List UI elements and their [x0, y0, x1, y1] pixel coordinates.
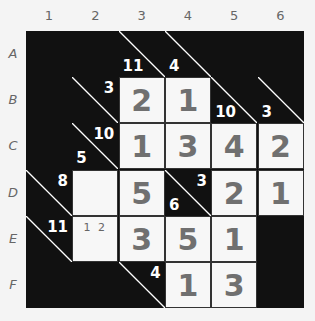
cell-value: 1: [166, 263, 210, 307]
cell-value: 3: [120, 217, 164, 261]
entry-cell-C4[interactable]: 3: [165, 123, 211, 169]
clue-cell-C2: 105: [72, 123, 118, 169]
cell-value: 3: [166, 124, 210, 168]
cell-value: 5: [120, 171, 164, 215]
kakuro-grid: 1143211031051342853621111 2351413: [26, 31, 304, 308]
cell-value: 1: [120, 124, 164, 168]
entry-cell-C5[interactable]: 4: [211, 123, 257, 169]
block-cell-A6: [258, 31, 304, 77]
cell-value: [73, 171, 117, 215]
clue-cell-E1: 11: [26, 216, 72, 262]
entry-cell-D5[interactable]: 2: [211, 170, 257, 216]
block-cell-F1: [26, 262, 72, 308]
down-clue: 6: [169, 196, 179, 214]
block-cell-B1: [26, 77, 72, 123]
down-clue: 3: [262, 103, 272, 121]
clue-cell-B5: 10: [211, 77, 257, 123]
clue-cell-D1: 8: [26, 170, 72, 216]
down-clue: 5: [76, 149, 86, 167]
entry-cell-E3[interactable]: 3: [119, 216, 165, 262]
entry-cell-F4[interactable]: 1: [165, 262, 211, 308]
entry-cell-D3[interactable]: 5: [119, 170, 165, 216]
entry-cell-E4[interactable]: 5: [165, 216, 211, 262]
row-label-F: F: [4, 262, 22, 308]
cell-value: 1: [259, 171, 303, 215]
cell-value: 2: [259, 124, 303, 168]
down-clue: 10: [215, 103, 236, 121]
cell-value: 1: [212, 217, 256, 261]
block-cell-A5: [211, 31, 257, 77]
entry-cell-E5[interactable]: 1: [211, 216, 257, 262]
clue-cell-A3: 11: [119, 31, 165, 77]
cell-value: 4: [212, 124, 256, 168]
row-label-C: C: [4, 123, 22, 169]
entry-cell-E2[interactable]: 1 2: [72, 216, 118, 262]
row-label-A: A: [4, 31, 22, 77]
row-label-B: B: [4, 77, 22, 123]
entry-cell-B4[interactable]: 1: [165, 77, 211, 123]
cell-value: 2: [212, 171, 256, 215]
row-label-D: D: [4, 170, 22, 216]
across-clue: 3: [196, 172, 206, 190]
block-cell-C1: [26, 123, 72, 169]
block-cell-A1: [26, 31, 72, 77]
pencil-marks: 1 2: [73, 221, 117, 234]
entry-cell-D6[interactable]: 1: [258, 170, 304, 216]
across-clue: 3: [104, 79, 114, 97]
block-cell-F2: [72, 262, 118, 308]
cell-value: 3: [212, 263, 256, 307]
clue-cell-D4: 36: [165, 170, 211, 216]
entry-cell-B3[interactable]: 2: [119, 77, 165, 123]
column-label-4: 4: [165, 8, 211, 23]
cell-value: 2: [120, 78, 164, 122]
block-cell-A2: [72, 31, 118, 77]
clue-cell-A4: 4: [165, 31, 211, 77]
column-label-6: 6: [258, 8, 304, 23]
across-clue: 8: [58, 172, 68, 190]
entry-cell-D2[interactable]: [72, 170, 118, 216]
row-label-E: E: [4, 216, 22, 262]
entry-cell-C3[interactable]: 1: [119, 123, 165, 169]
entry-cell-C6[interactable]: 2: [258, 123, 304, 169]
across-clue: 10: [93, 125, 114, 143]
clue-cell-B2: 3: [72, 77, 118, 123]
entry-cell-F5[interactable]: 3: [211, 262, 257, 308]
across-clue: 11: [47, 218, 68, 236]
down-clue: 11: [123, 57, 144, 75]
column-label-1: 1: [26, 8, 72, 23]
column-label-3: 3: [119, 8, 165, 23]
down-clue: 4: [169, 57, 179, 75]
block-cell-F6: [258, 262, 304, 308]
clue-cell-F3: 4: [119, 262, 165, 308]
cell-value: 1: [166, 78, 210, 122]
across-clue: 4: [150, 264, 160, 282]
block-cell-E6: [258, 216, 304, 262]
column-label-5: 5: [211, 8, 257, 23]
cell-value: 5: [166, 217, 210, 261]
clue-cell-B6: 3: [258, 77, 304, 123]
column-label-2: 2: [72, 8, 118, 23]
